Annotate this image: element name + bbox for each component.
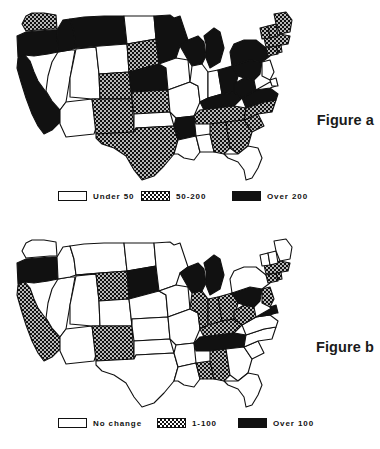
legend-label-50-200: 50-200 bbox=[176, 192, 206, 201]
us-map-figure-a bbox=[8, 6, 298, 184]
figure-b-panel: Figure b No change 1-100 Over 100 bbox=[0, 227, 380, 449]
state-LA bbox=[174, 136, 200, 160]
state-MN bbox=[154, 242, 188, 291]
state-TX bbox=[96, 126, 178, 180]
state-WA bbox=[22, 13, 57, 31]
state-KS bbox=[132, 317, 170, 341]
legend-item-under-50: Under 50 bbox=[58, 189, 134, 203]
state-MI bbox=[204, 28, 224, 68]
legend-label-over-100: Over 100 bbox=[273, 419, 314, 428]
legend-item-over-200: Over 200 bbox=[232, 189, 308, 203]
legend-item-1-100: 1-100 bbox=[157, 416, 217, 430]
legend-item-50-200: 50-200 bbox=[141, 189, 206, 203]
legend-swatch-black bbox=[238, 418, 267, 428]
state-FL bbox=[224, 373, 262, 407]
legend-label-1-100: 1-100 bbox=[192, 419, 217, 428]
legend-label-no-change: No change bbox=[93, 419, 142, 428]
figure-a-panel: Figure a Under 50 50-200 Over 200 bbox=[0, 0, 380, 222]
figure-a-title: Figure a bbox=[317, 112, 374, 128]
state-AZ bbox=[60, 326, 96, 364]
state-OR bbox=[17, 30, 58, 57]
state-UT bbox=[70, 274, 100, 326]
state-UT bbox=[70, 47, 100, 99]
state-NJ bbox=[262, 287, 274, 307]
figure-b-legend: No change 1-100 Over 100 bbox=[0, 413, 380, 435]
state-OR bbox=[17, 257, 58, 284]
figure-b-title: Figure b bbox=[316, 339, 374, 355]
state-KS bbox=[132, 90, 170, 114]
state-MI bbox=[204, 255, 224, 295]
legend-swatch-hatch bbox=[141, 191, 170, 201]
state-CO bbox=[99, 299, 132, 326]
legend-swatch-black bbox=[232, 191, 261, 201]
us-map-figure-b bbox=[8, 233, 298, 411]
state-NJ bbox=[262, 60, 274, 80]
state-DE bbox=[270, 78, 278, 86]
state-MT bbox=[70, 16, 127, 48]
legend-label-over-200: Over 200 bbox=[267, 192, 308, 201]
state-DE bbox=[270, 305, 278, 313]
state-AZ bbox=[60, 99, 96, 137]
figure-a-map bbox=[8, 6, 298, 184]
state-CO bbox=[99, 72, 132, 99]
figure-a-legend: Under 50 50-200 Over 200 bbox=[0, 186, 380, 208]
state-TX bbox=[96, 353, 178, 407]
state-LA bbox=[174, 363, 200, 387]
state-WA bbox=[22, 240, 57, 258]
legend-swatch-white bbox=[58, 191, 87, 201]
legend-swatch-hatch bbox=[157, 418, 186, 428]
legend-item-over-100: Over 100 bbox=[238, 416, 314, 430]
state-NM bbox=[92, 99, 134, 134]
state-MN bbox=[154, 15, 188, 64]
state-NM bbox=[92, 326, 134, 361]
state-FL bbox=[224, 146, 262, 180]
legend-label-under-50: Under 50 bbox=[93, 192, 134, 201]
state-MT bbox=[70, 243, 127, 275]
legend-swatch-white bbox=[58, 418, 87, 428]
legend-item-no-change: No change bbox=[58, 416, 142, 430]
figure-b-map bbox=[8, 233, 298, 411]
